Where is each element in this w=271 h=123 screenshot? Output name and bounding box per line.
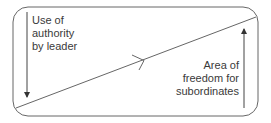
- authority-label-line-3: by leader: [32, 40, 77, 53]
- freedom-label: Area of freedom for subordinates: [176, 59, 239, 98]
- freedom-label-line-2: freedom for: [176, 72, 239, 85]
- chevron-right-icon: [132, 55, 144, 70]
- authority-label-line-2: authority: [32, 27, 77, 40]
- authority-label-line-1: Use of: [32, 14, 77, 27]
- freedom-label-line-1: Area of: [176, 59, 239, 72]
- authority-label: Use of authority by leader: [32, 14, 77, 53]
- freedom-label-line-3: subordinates: [176, 85, 239, 98]
